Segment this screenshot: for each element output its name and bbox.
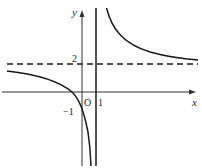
y-axis-label: y [71, 6, 77, 18]
x-axis-arrow-icon [189, 90, 196, 95]
function-graph: x y 2 O 1 −1 [0, 0, 202, 168]
y-axis-arrow-icon [80, 10, 85, 17]
x-axis-label: x [191, 96, 197, 108]
curve-right-branch [107, 8, 199, 60]
y-tick-neg1: −1 [63, 106, 74, 117]
y-tick-2: 2 [72, 53, 77, 64]
x-tick-1: 1 [98, 97, 103, 108]
origin-label: O [84, 97, 91, 108]
curve-left-branch [7, 71, 91, 166]
